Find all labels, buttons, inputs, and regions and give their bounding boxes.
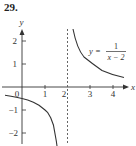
function-label-lhs: y = [88, 46, 101, 56]
x-axis-label: x [130, 82, 135, 92]
x-tick-2: 2 [62, 89, 67, 99]
y-tick-neg1: −1 [8, 105, 18, 115]
function-label-denominator: x − 2 [107, 53, 125, 62]
curve-left-branch [5, 95, 57, 146]
y-axis-label: y [19, 17, 24, 27]
y-axis-arrow-icon [20, 29, 25, 35]
x-tick-4: 4 [111, 89, 116, 99]
x-axis-arrow-icon [123, 85, 129, 90]
y-tick-2: 2 [13, 36, 18, 46]
x-tick-3: 3 [88, 89, 93, 99]
y-tick-neg2: −2 [8, 128, 18, 138]
x-tick-1: 1 [43, 89, 48, 99]
curve-right-branch [73, 29, 90, 64]
function-graph: x y 0 1 2 3 4 2 1 −1 −2 y = 1 x − 2 [0, 0, 136, 146]
function-label-numerator: 1 [114, 42, 118, 51]
y-tick-1: 1 [13, 59, 18, 69]
